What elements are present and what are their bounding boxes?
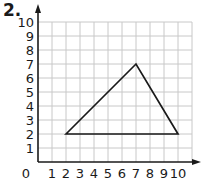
- y-tick-label: 4: [26, 99, 34, 114]
- x-tick-label: 6: [118, 166, 126, 180]
- coordinate-graph: 12345678910123456789100: [0, 0, 202, 180]
- axes: [35, 4, 201, 165]
- x-tick-label: 9: [160, 166, 168, 180]
- y-tick-label: 3: [26, 113, 34, 128]
- y-tick-label: 9: [26, 29, 34, 44]
- x-axis-arrow-icon: [192, 159, 201, 165]
- x-tick-label: 4: [90, 166, 98, 180]
- y-tick-label: 6: [26, 71, 34, 86]
- x-tick-label: 5: [104, 166, 112, 180]
- origin-label: 0: [22, 166, 30, 180]
- y-tick-label: 8: [26, 43, 34, 58]
- x-tick-label: 10: [170, 166, 187, 180]
- x-tick-label: 2: [62, 166, 70, 180]
- y-tick-label: 5: [26, 85, 34, 100]
- x-tick-label: 7: [132, 166, 140, 180]
- y-axis-arrow-icon: [35, 4, 41, 13]
- x-tick-label: 1: [48, 166, 56, 180]
- y-tick-label: 1: [26, 141, 34, 156]
- grid-lines: [38, 22, 192, 162]
- x-tick-label: 8: [146, 166, 154, 180]
- x-tick-label: 3: [76, 166, 84, 180]
- y-tick-label: 2: [26, 127, 34, 142]
- y-tick-label: 7: [26, 57, 34, 72]
- y-tick-label: 10: [17, 15, 34, 30]
